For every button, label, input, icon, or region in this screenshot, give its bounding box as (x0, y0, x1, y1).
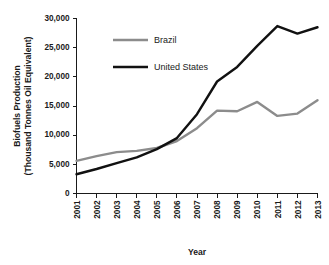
y-tick-label: 10,000 (44, 130, 69, 139)
x-tick-label: 2001 (73, 200, 82, 219)
x-tick-label: 2003 (113, 200, 122, 219)
x-axis-tick-labels: 2001200220032004200520062007200820092010… (73, 200, 323, 219)
x-tick-label: 2011 (274, 200, 283, 218)
y-tick-label: 25,000 (44, 43, 69, 52)
y-axis-tick-labels: 05,00010,00015,00020,00025,00030,000 (44, 14, 69, 198)
x-tick-label: 2005 (153, 200, 162, 219)
x-tick-label: 2012 (294, 200, 303, 219)
y-tick-label: 15,000 (44, 101, 69, 110)
y-tick-label: 5,000 (49, 160, 70, 169)
y-tick-label: 30,000 (44, 14, 69, 23)
data-series-group (77, 26, 318, 174)
biofuels-production-line-chart: 05,00010,00015,00020,00025,00030,000 200… (0, 0, 329, 265)
x-tick-label: 2004 (133, 200, 142, 219)
y-tick-label: 20,000 (44, 72, 69, 81)
x-tick-label: 2013 (314, 200, 323, 219)
chart-legend: Brazil United States (113, 35, 209, 72)
x-tick-label: 2010 (253, 200, 262, 219)
x-tick-label: 2002 (93, 200, 102, 219)
x-tick-label: 2006 (173, 200, 182, 219)
series-line-brazil (77, 100, 318, 161)
x-axis-title: Year (188, 247, 207, 257)
y-tick-label: 0 (65, 189, 70, 198)
x-axis-ticks (77, 194, 318, 198)
y-axis-ticks (73, 19, 77, 194)
y-axis-title-line2: (Thousand Tonnes Oil Equivalent) (23, 36, 33, 175)
x-tick-label: 2007 (193, 200, 202, 219)
y-axis-title-line1: Biofuels Production (12, 65, 22, 147)
x-tick-label: 2008 (213, 200, 222, 219)
legend-label-brazil: Brazil (154, 35, 177, 45)
x-tick-label: 2009 (233, 200, 242, 219)
legend-label-united-states: United States (154, 62, 209, 72)
chart-plot-svg: 05,00010,00015,00020,00025,00030,000 200… (0, 0, 329, 265)
